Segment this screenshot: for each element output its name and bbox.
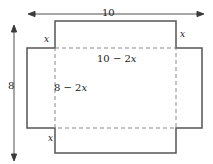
label-base-width: 10 − 2x (97, 54, 136, 64)
label-corner-x-top-right: x (180, 30, 185, 39)
label-total-width: 10 (102, 8, 115, 18)
label-total-height: 8 (8, 81, 14, 91)
dimension-arrow-width (28, 11, 204, 16)
label-corner-x-top-left: x (44, 35, 49, 44)
label-base-height: 8 − 2x (54, 83, 87, 93)
label-corner-x-bottom-left: x (48, 134, 53, 143)
geometry-figure: 10 8 x x x 10 − 2x 8 − 2x (0, 0, 213, 164)
dimension-arrow-height (11, 25, 16, 161)
figure-canvas (0, 0, 213, 164)
